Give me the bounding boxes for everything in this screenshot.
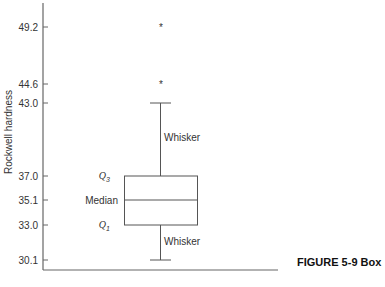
outlier-marker: * xyxy=(159,79,163,90)
tick-label: 35.1 xyxy=(19,195,39,206)
q1-label: Q1 xyxy=(99,219,110,232)
outliers: * * xyxy=(159,22,163,90)
y-axis-label: Rockwell hardness xyxy=(3,90,14,174)
lower-whisker-label: Whisker xyxy=(164,236,201,247)
tick-label: 37.0 xyxy=(19,171,39,182)
tick-label: 43.0 xyxy=(19,98,39,109)
box-plot-chart: Rockwell hardness 49.2 44.6 43.0 37.0 35… xyxy=(0,0,385,287)
upper-whisker-label: Whisker xyxy=(164,132,201,143)
figure-caption: FIGURE 5-9 Box xyxy=(297,256,381,268)
tick-label: 44.6 xyxy=(19,79,39,90)
tick-label: 49.2 xyxy=(19,22,39,33)
tick-label: 30.1 xyxy=(19,255,39,266)
outlier-marker: * xyxy=(159,22,163,33)
tick-label: 33.0 xyxy=(19,220,39,231)
median-label: Median xyxy=(85,195,118,206)
q3-label: Q3 xyxy=(99,170,110,183)
